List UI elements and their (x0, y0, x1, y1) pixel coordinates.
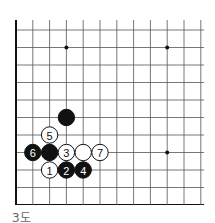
black-stone-icon (41, 144, 57, 160)
star-point-icon (64, 46, 68, 50)
white-stone-icon (75, 144, 91, 160)
black-stone-icon (58, 109, 74, 125)
move-number: 3 (63, 147, 69, 159)
white-stone: 7 (92, 144, 108, 160)
white-stone: 5 (41, 127, 57, 143)
move-number: 7 (97, 147, 103, 159)
black-stone (41, 144, 57, 160)
white-stone: 3 (58, 144, 74, 160)
diagram-caption: 3도 (12, 208, 31, 223)
board-grid (16, 20, 204, 205)
move-number: 4 (80, 165, 86, 177)
move-number: 2 (63, 165, 69, 177)
white-stone (75, 144, 91, 160)
go-board: 5637124 (0, 0, 215, 205)
star-point-icon (165, 151, 169, 155)
black-stone: 4 (75, 162, 91, 178)
black-stone: 2 (58, 162, 74, 178)
white-stone: 1 (41, 162, 57, 178)
black-stone: 6 (25, 144, 41, 160)
black-stone (58, 109, 74, 125)
star-point-icon (165, 46, 169, 50)
move-number: 5 (47, 130, 53, 142)
move-number: 6 (30, 147, 36, 159)
move-number: 1 (47, 165, 53, 177)
